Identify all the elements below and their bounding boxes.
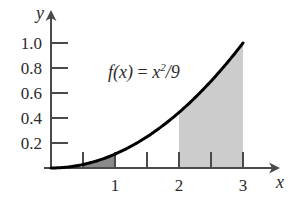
function-label: f(x) = x2/9: [108, 63, 180, 81]
plot-area: [0, 0, 298, 202]
function-label-argument: (x): [113, 62, 133, 82]
x-tick-label-2: 2: [175, 177, 184, 194]
y-tick-label-5: 0.2: [2, 135, 42, 152]
function-label-equals: =: [133, 62, 152, 82]
function-label-suffix: /9: [166, 62, 180, 82]
x-tick-label-3: 3: [239, 177, 248, 194]
x-axis-label: x: [276, 173, 284, 191]
figure-canvas: 1.0 0.8 0.6 0.4 0.2 1 2 3 y x f(x) = x2/…: [0, 0, 298, 202]
function-label-base: x: [152, 62, 160, 82]
x-tick-label-1: 1: [111, 177, 120, 194]
y-tick-label-4: 0.4: [2, 110, 42, 127]
y-tick-label-3: 0.6: [2, 85, 42, 102]
y-axis-label: y: [36, 4, 44, 22]
y-tick-label-2: 0.8: [2, 60, 42, 77]
y-axis-ticks: [51, 43, 68, 143]
y-tick-label-1: 1.0: [2, 35, 42, 52]
